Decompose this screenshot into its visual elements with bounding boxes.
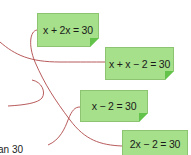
equation-label: x − 2 = 30 [92,100,137,112]
equation-label: 2x − 2 = 30 [130,138,180,150]
partial-text: an 30 [0,144,23,155]
equation-label: x + x − 2 = 30 [109,58,170,70]
equation-label: x + 2x = 30 [43,24,93,36]
fold-corner-shade-icon [139,113,148,122]
fold-corner-shade-icon [90,38,99,47]
equation-card-4[interactable]: 2x − 2 = 30 [122,130,188,155]
fold-corner-shade-icon [165,71,174,80]
equation-card-2[interactable]: x + x − 2 = 30 [105,47,174,80]
equation-card-3[interactable]: x − 2 = 30 [80,90,148,122]
equation-card-1[interactable]: x + 2x = 30 [37,13,99,47]
